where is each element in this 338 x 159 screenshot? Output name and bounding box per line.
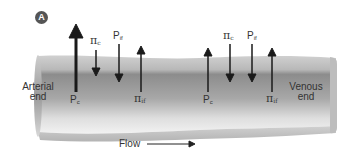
label-arterial-pif: Pif — [113, 31, 123, 42]
venous-end-label-line2: end — [284, 92, 328, 102]
venous-end-label: Venous end — [284, 82, 328, 102]
capillary-filtration-diagram: A Pc πc Pif πif Pc πc Pif πif Arterial e… — [0, 0, 338, 159]
label-venous-pc: Pc — [203, 95, 213, 106]
flow-label: Flow — [119, 138, 140, 149]
venous-end-cap — [330, 57, 337, 133]
label-arterial-pc: Pc — [70, 95, 80, 106]
label-arterial-pi-c: πc — [90, 36, 101, 47]
arterial-end-label: Arterial end — [18, 82, 58, 102]
vessel-illustration — [0, 0, 338, 159]
label-arterial-pi-if: πif — [134, 94, 145, 105]
label-venous-pif: Pif — [247, 31, 257, 42]
label-venous-pi-if: πif — [266, 94, 277, 105]
panel-badge: A — [35, 11, 48, 24]
flow-arrow — [147, 141, 195, 147]
arterial-end-label-line2: end — [18, 92, 58, 102]
label-venous-pi-c: πc — [223, 31, 234, 42]
